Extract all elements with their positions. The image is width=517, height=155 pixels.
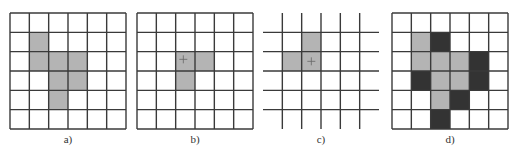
gray-cell xyxy=(29,52,48,71)
gray-cell xyxy=(49,52,68,71)
dark-cell xyxy=(450,90,469,109)
gray-cell xyxy=(195,52,214,71)
panel-label-d: d) xyxy=(392,133,508,145)
grid-panel-a xyxy=(10,13,126,129)
dark-cell xyxy=(411,71,430,90)
gray-cell xyxy=(450,52,469,71)
gray-cell xyxy=(302,32,321,51)
gray-cell xyxy=(282,52,301,71)
dark-cell xyxy=(469,71,488,90)
dark-cell xyxy=(431,110,450,129)
panel-label-a: a) xyxy=(10,133,126,145)
gray-cell xyxy=(29,32,48,51)
gray-cell xyxy=(431,52,450,71)
gray-cell xyxy=(68,71,87,90)
gray-cell xyxy=(49,71,68,90)
grid-panel-c xyxy=(263,13,379,129)
grid-d xyxy=(392,13,508,129)
panel-label-c: c) xyxy=(263,133,379,145)
grid-panel-b xyxy=(137,13,253,129)
gray-cell xyxy=(176,71,195,90)
grid-panel-d xyxy=(392,13,508,129)
gray-cell xyxy=(450,71,469,90)
dark-cell xyxy=(431,32,450,51)
gray-cell xyxy=(431,71,450,90)
grid-b xyxy=(137,13,253,129)
gray-cell xyxy=(411,52,430,71)
grid-c xyxy=(263,13,379,129)
dark-cell xyxy=(469,52,488,71)
gray-cell xyxy=(411,32,430,51)
grid-a xyxy=(10,13,126,129)
gray-cell xyxy=(49,90,68,109)
gray-cell xyxy=(431,90,450,109)
gray-cell xyxy=(68,52,87,71)
gray-cell xyxy=(176,52,195,71)
panel-label-b: b) xyxy=(137,133,253,145)
